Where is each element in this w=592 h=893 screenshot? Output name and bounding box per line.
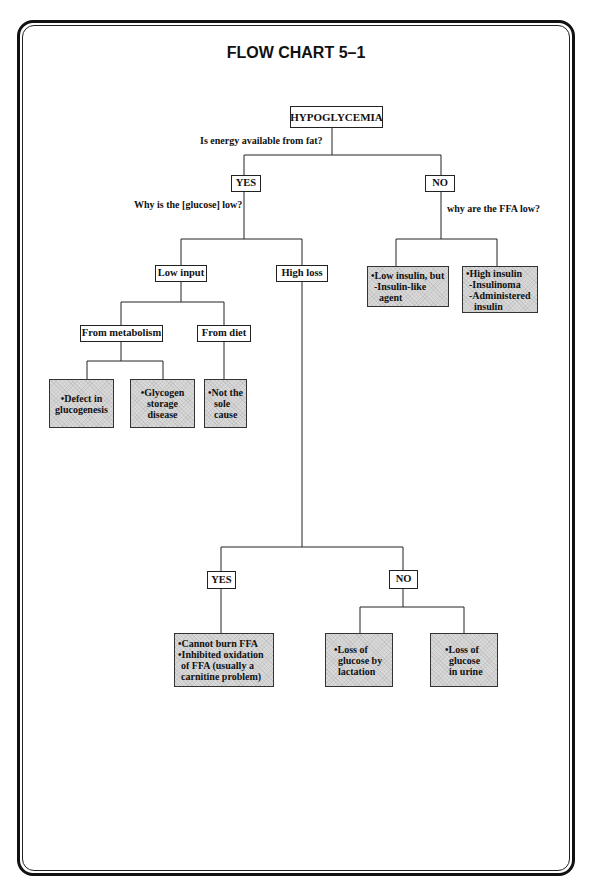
connector-lines — [0, 0, 592, 893]
leaf-line: agent — [371, 292, 445, 303]
leaf-line: lactation — [334, 666, 389, 677]
leaf-line: •Not the — [208, 387, 243, 398]
leaf-not-sole-cause: •Not the sole cause — [204, 379, 247, 428]
leaf-line: of FFA (usually a — [178, 660, 270, 671]
leaf-line: glucose by — [334, 655, 389, 666]
node-no-fat: NO — [425, 175, 455, 192]
leaf-line: cause — [208, 409, 243, 420]
node-yes-fat: YES — [231, 175, 261, 192]
leaf-line: -Insulin-like — [371, 281, 445, 292]
leaf-line: sole — [208, 398, 243, 409]
leaf-line: •Glycogen — [141, 387, 185, 398]
leaf-line: glucogenesis — [55, 404, 108, 415]
leaf-glycogen-storage: •Glycogen storage disease — [130, 379, 195, 428]
leaf-line: carnitine problem) — [178, 671, 270, 682]
leaf-line: glucose — [445, 655, 494, 666]
leaf-line: insulin — [466, 301, 534, 312]
leaf-high-insulin: •High insulin -Insulinoma -Administered … — [462, 266, 538, 313]
question-energy-from-fat: Is energy available from fat? — [200, 135, 323, 146]
node-from-diet: From diet — [197, 325, 251, 342]
node-high-loss: High loss — [276, 265, 328, 282]
leaf-line: •Loss of — [445, 644, 494, 655]
leaf-line: •Inhibited oxidation — [178, 649, 270, 660]
leaf-line: -Administered — [466, 290, 534, 301]
leaf-line: •Defect in — [61, 393, 103, 404]
node-hypoglycemia: HYPOGLYCEMIA — [290, 106, 383, 128]
node-yes-high-loss: YES — [207, 571, 236, 589]
leaf-line: storage — [147, 398, 178, 409]
question-why-ffa-low: why are the FFA low? — [447, 203, 540, 214]
node-from-metabolism: From metabolism — [80, 325, 163, 342]
leaf-line: in urine — [445, 666, 494, 677]
leaf-line: •Cannot burn FFA — [178, 638, 270, 649]
leaf-line: •Low insulin, but — [371, 270, 445, 281]
leaf-line: -Insulinoma — [466, 279, 534, 290]
question-why-glucose-low: Why is the [glucose] low? — [134, 199, 242, 210]
leaf-line: •Loss of — [334, 644, 389, 655]
leaf-cannot-burn-ffa: •Cannot burn FFA •Inhibited oxidation of… — [174, 633, 274, 687]
leaf-line: disease — [148, 409, 178, 420]
leaf-low-insulin: •Low insulin, but -Insulin-like agent — [367, 266, 449, 307]
leaf-line: •High insulin — [466, 268, 534, 279]
leaf-loss-urine: •Loss of glucose in urine — [430, 633, 498, 687]
node-no-high-loss: NO — [389, 570, 418, 589]
leaf-defect-glucogenesis: •Defect in glucogenesis — [49, 379, 114, 428]
node-low-input: Low input — [155, 265, 207, 282]
leaf-loss-lactation: •Loss of glucose by lactation — [325, 633, 393, 687]
